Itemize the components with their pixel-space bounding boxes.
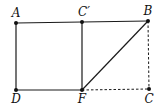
segment-B-C (148, 21, 149, 89)
geometry-figure: A C′ B D F C (0, 0, 161, 106)
segment-F-C (82, 89, 149, 90)
label-A: A (11, 6, 21, 20)
point-A (14, 21, 18, 25)
label-C: C (144, 92, 153, 106)
point-Cp (80, 20, 84, 24)
segments (16, 21, 149, 90)
point-B (146, 19, 150, 23)
label-D: D (10, 92, 21, 106)
label-Cp: C′ (78, 5, 90, 19)
segment-Cp-B (82, 21, 148, 22)
point-C (147, 87, 151, 91)
label-B: B (143, 4, 153, 18)
label-F: F (77, 92, 87, 106)
segment-F-B (82, 21, 148, 90)
segment-A-Cp (16, 22, 82, 23)
